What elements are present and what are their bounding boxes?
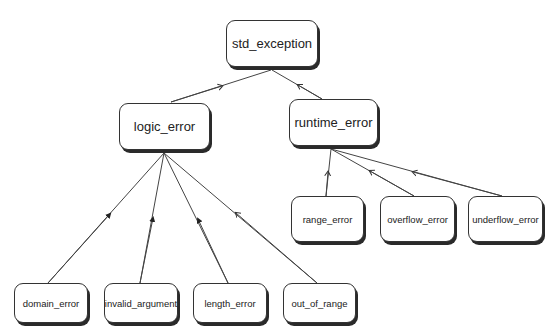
node-out-of-range: out_of_range [283,283,356,323]
node-underflow-error: underflow_error [468,196,543,242]
node-range-error: range_error [291,196,364,242]
node-runtime-error: runtime_error [289,99,378,146]
node-overflow-error: overflow_error [380,196,455,242]
node-domain-error: domain_error [14,283,88,323]
node-invalid-argument: invalid_argument [104,283,178,323]
node-std-exception: std_exception [226,20,318,67]
node-logic-error: logic_error [119,103,210,150]
node-length-error: length_error [193,283,267,323]
